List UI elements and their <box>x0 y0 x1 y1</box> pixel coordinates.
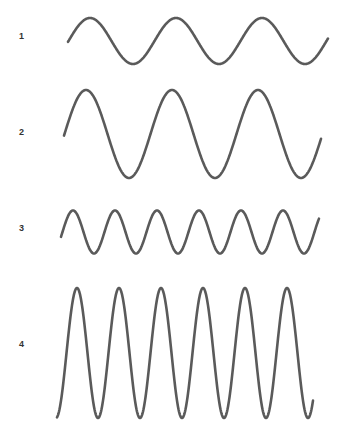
waves-diagram <box>0 0 339 435</box>
wave-label-3: 3 <box>19 224 24 233</box>
wave-label-1: 1 <box>19 32 24 41</box>
wave-1 <box>68 18 328 64</box>
wave-label-2: 2 <box>19 128 24 137</box>
wave-2 <box>64 90 321 178</box>
wave-3 <box>61 211 319 254</box>
wave-4 <box>57 288 313 418</box>
wave-label-4: 4 <box>19 340 24 349</box>
